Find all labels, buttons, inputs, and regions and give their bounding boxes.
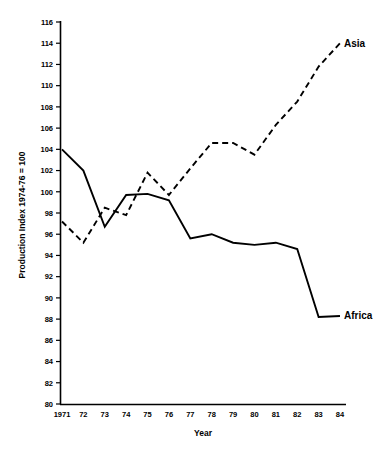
axes: [60, 21, 346, 405]
series-line-africa: [62, 149, 340, 317]
y-tick-label: 90: [45, 294, 53, 303]
y-tick-label: 112: [41, 60, 53, 69]
x-tick-label: 84: [336, 410, 345, 419]
x-tick-label: 72: [79, 410, 87, 419]
y-tick-label: 82: [45, 379, 53, 388]
series-label-africa: Africa: [344, 310, 373, 321]
y-tick-label: 102: [40, 166, 53, 175]
x-tick-label: 76: [165, 410, 173, 419]
x-axis-title: Year: [194, 428, 213, 438]
y-tick-label: 88: [45, 315, 53, 324]
y-tick-label: 116: [41, 18, 53, 27]
y-tick-label: 110: [41, 81, 53, 90]
y-tick-label: 100: [40, 188, 53, 197]
x-tick-label: 74: [122, 410, 131, 419]
x-tick-label: 73: [101, 410, 109, 419]
y-tick-label: 94: [45, 251, 54, 260]
y-tick-label: 104: [40, 145, 53, 154]
production-index-line-chart: Production Index 1974-76 = 100 808284868…: [0, 0, 373, 455]
y-tick-label: 86: [45, 336, 53, 345]
y-tick-label: 106: [40, 124, 53, 133]
x-tick-label: 82: [293, 410, 301, 419]
x-tick-label: 78: [208, 410, 216, 419]
series-label-asia: Asia: [344, 38, 366, 49]
x-tick-label: 1971: [54, 410, 71, 419]
x-tick-label: 83: [314, 410, 322, 419]
y-tick-label: 98: [45, 209, 53, 218]
y-axis-title: Production Index 1974-76 = 100: [17, 151, 27, 278]
x-tick-label: 81: [272, 410, 280, 419]
chart-canvas: Production Index 1974-76 = 100 808284868…: [0, 0, 373, 455]
data-series-group: [62, 43, 340, 317]
y-axis-ticks: 8082848688909294969810010210410610811011…: [40, 18, 60, 409]
y-tick-label: 84: [45, 357, 54, 366]
y-tick-label: 108: [40, 103, 53, 112]
x-tick-label: 75: [143, 410, 151, 419]
series-line-asia: [62, 43, 340, 242]
x-tick-label: 77: [186, 410, 194, 419]
y-tick-label: 92: [45, 272, 53, 281]
x-axis-ticks: 197172737475767778798081828384: [54, 410, 345, 419]
y-tick-label: 114: [41, 39, 54, 48]
y-tick-label: 96: [45, 230, 53, 239]
x-tick-label: 80: [250, 410, 258, 419]
x-tick-label: 79: [229, 410, 237, 419]
series-labels-group: AsiaAfrica: [344, 38, 373, 322]
y-tick-label: 80: [45, 400, 53, 409]
